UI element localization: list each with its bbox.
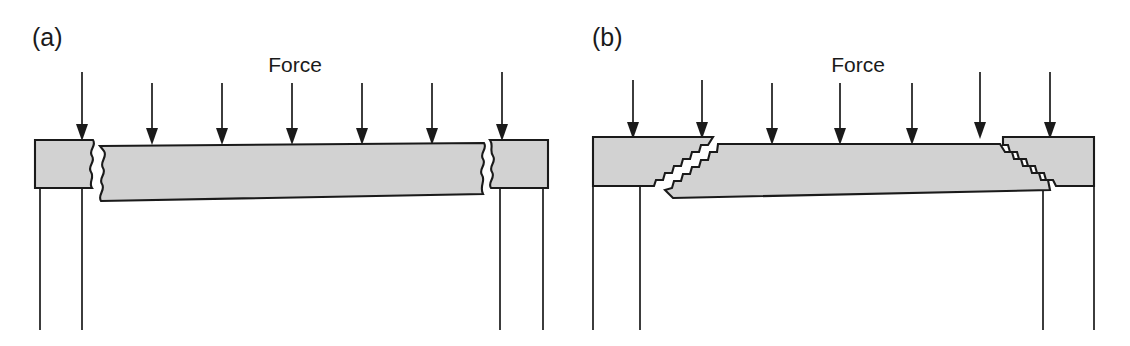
figure-container: (a) Force [0, 0, 1130, 346]
panel-b-label: (b) [592, 23, 623, 51]
force-arrow [834, 83, 846, 145]
arrow-head-icon [146, 128, 158, 145]
force-arrow [627, 80, 639, 139]
panel-b-support-lines [593, 186, 1094, 330]
force-arrow [496, 72, 508, 141]
force-arrow [906, 83, 918, 145]
panel-a-center-block [100, 143, 485, 201]
arrow-head-icon [356, 128, 368, 145]
force-arrow [286, 83, 298, 145]
force-arrow [974, 72, 986, 139]
arrow-head-icon [766, 128, 778, 145]
arrow-head-icon [974, 122, 986, 139]
arrow-head-icon [76, 124, 88, 141]
arrow-head-icon [286, 128, 298, 145]
arrow-head-icon [216, 128, 228, 145]
force-arrow [356, 83, 368, 145]
force-arrow [76, 72, 88, 141]
arrow-head-icon [496, 124, 508, 141]
panel-a: (a) Force [32, 23, 548, 330]
arrow-head-icon [834, 128, 846, 145]
panel-a-left-block [35, 140, 94, 188]
force-arrow [696, 80, 708, 139]
panel-a-label: (a) [32, 23, 63, 51]
arrow-head-icon [906, 128, 918, 145]
force-arrow [1044, 72, 1056, 139]
panel-a-support-lines [40, 188, 543, 330]
panel-b: (b) Force [592, 23, 1094, 330]
panel-b-center-block [665, 144, 1050, 198]
force-arrow [426, 83, 438, 145]
diagram-canvas: (a) Force [0, 0, 1130, 346]
panel-a-right-block [490, 140, 548, 188]
force-arrow [766, 83, 778, 145]
force-arrow [146, 83, 158, 145]
force-arrow [216, 83, 228, 145]
panel-a-force-arrows [76, 72, 508, 145]
panel-b-force-arrows [627, 72, 1056, 145]
panel-a-force-label: Force [268, 53, 322, 76]
panel-b-force-label: Force [831, 53, 885, 76]
